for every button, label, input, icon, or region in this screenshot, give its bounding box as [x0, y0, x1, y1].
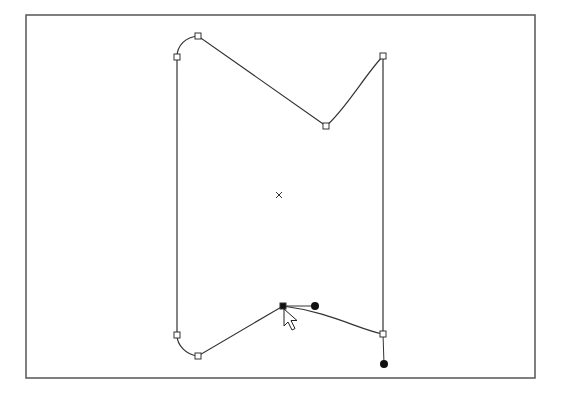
anchor-point-top-left-side[interactable] [174, 54, 180, 60]
handle-line [383, 334, 384, 364]
anchor-point-bottom-left-corner[interactable] [195, 353, 201, 359]
anchor-point-top-left-corner[interactable] [195, 33, 201, 39]
control-handle-bottom-right-handle[interactable] [380, 360, 388, 368]
anchor-point-bottom-notch[interactable] [280, 303, 286, 309]
anchor-point-top-notch[interactable] [323, 123, 329, 129]
center-marker-icon [276, 192, 282, 198]
anchor-point-bottom-left-side[interactable] [174, 332, 180, 338]
control-handles[interactable] [283, 302, 388, 368]
anchor-point-bottom-right[interactable] [380, 331, 386, 337]
control-handle-bottom-notch-handle[interactable] [311, 302, 319, 310]
anchor-point-top-right[interactable] [380, 53, 386, 59]
drawing-canvas[interactable] [0, 0, 563, 396]
arrow-cursor-icon [284, 309, 297, 330]
